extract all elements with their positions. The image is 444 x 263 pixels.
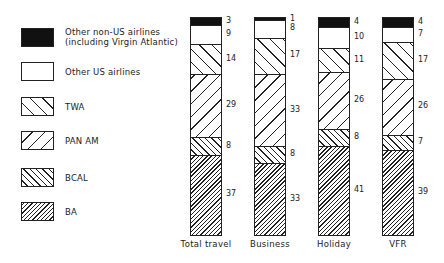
value-label: 33 (290, 105, 300, 114)
category-label: VFR (363, 239, 433, 249)
value-label: 4 (418, 17, 423, 26)
legend-label: Other non-US airlines (65, 27, 160, 37)
bar-segment (319, 18, 349, 27)
legend-swatch-bcal (21, 168, 54, 187)
bar-segment (383, 150, 413, 235)
value-label: 17 (290, 50, 300, 59)
bar-segment (383, 135, 413, 150)
legend-swatch-black (21, 28, 54, 47)
value-label: 26 (418, 101, 428, 110)
value-label: 7 (418, 29, 423, 38)
bar-segment (319, 72, 349, 128)
stacked-bar (318, 17, 350, 236)
value-label: 3 (226, 16, 231, 25)
legend-swatch-twa (21, 97, 54, 116)
bar-segment (383, 27, 413, 42)
bar-segment (255, 38, 285, 75)
bar-segment (319, 27, 349, 49)
bar-segment (319, 48, 349, 72)
category-label: Business (235, 239, 305, 249)
legend-swatch-ba (21, 202, 54, 221)
bar-segment (191, 44, 221, 74)
bar-segment (191, 155, 221, 235)
value-label: 9 (226, 29, 231, 38)
value-label: 39 (418, 187, 428, 196)
legend-label: PAN AM (65, 136, 99, 146)
category-label: Holiday (299, 239, 369, 249)
bar-segment (255, 74, 285, 146)
value-label: 41 (354, 185, 364, 194)
bar-segment (191, 25, 221, 45)
legend-label: BA (65, 207, 77, 217)
value-label: 8 (290, 149, 295, 158)
bar-segment (383, 18, 413, 27)
legend-label: TWA (65, 102, 85, 112)
value-label: 17 (418, 55, 428, 64)
bar-segment (255, 146, 285, 163)
bar-segment (383, 79, 413, 135)
stacked-bar (382, 17, 414, 236)
legend-label: Other US airlines (65, 67, 140, 77)
stacked-bar (254, 17, 286, 236)
value-label: 29 (226, 100, 236, 109)
value-label: 7 (418, 137, 423, 146)
bar-segment (319, 129, 349, 146)
legend-swatch-panam (21, 131, 54, 150)
legend-swatch-white (21, 62, 54, 81)
value-label: 8 (354, 132, 359, 141)
bar-segment (191, 74, 221, 137)
value-label: 33 (290, 194, 300, 203)
bar-segment (383, 42, 413, 79)
value-label: 26 (354, 95, 364, 104)
legend-label: BCAL (65, 173, 88, 183)
bar-segment (255, 20, 285, 37)
bar-segment (191, 137, 221, 154)
legend-label-line2: (including Virgin Atlantic) (65, 37, 178, 47)
category-label: Total travel (171, 239, 241, 249)
value-label: 37 (226, 189, 236, 198)
value-label: 8 (226, 141, 231, 150)
value-label: 11 (354, 55, 364, 64)
value-label: 4 (354, 17, 359, 26)
value-label: 10 (354, 32, 364, 41)
stacked-bar (190, 17, 222, 236)
value-label: 8 (290, 23, 295, 32)
bar-segment (319, 146, 349, 235)
value-label: 1 (290, 14, 295, 23)
bar-segment (255, 163, 285, 235)
value-label: 14 (226, 54, 236, 63)
